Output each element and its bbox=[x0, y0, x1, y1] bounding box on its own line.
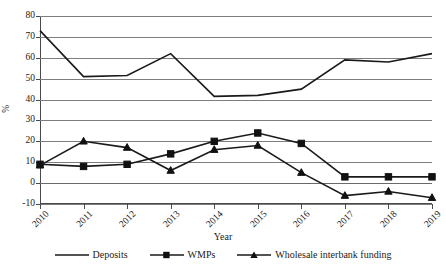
x-tick-mark-2019 bbox=[432, 204, 433, 209]
x-tick-mark-2014 bbox=[214, 204, 215, 209]
legend-label: Wholesale interbank funding bbox=[275, 250, 391, 260]
x-tick-label: 2015 bbox=[249, 209, 269, 229]
y-tick-label: -10 bbox=[22, 199, 35, 209]
data-point-marker-triangle bbox=[80, 137, 87, 144]
chart-legend: DepositsWMPsWholesale interbank funding bbox=[0, 250, 446, 260]
data-point-marker-square bbox=[385, 174, 391, 180]
series-deposits bbox=[40, 31, 432, 97]
x-tick-mark-2015 bbox=[258, 204, 259, 209]
x-tick-mark-2017 bbox=[345, 204, 346, 209]
triangle-marker-icon bbox=[237, 250, 271, 260]
y-axis-title: % bbox=[2, 105, 12, 113]
y-tick-label: 40 bbox=[26, 95, 36, 105]
x-tick-label: 2012 bbox=[118, 209, 138, 229]
line-chart-figure: % -1001020304050607080 20102011201220132… bbox=[0, 0, 446, 270]
legend-item-wholesale-interbank-funding[interactable]: Wholesale interbank funding bbox=[237, 250, 391, 260]
x-tick-label: 2017 bbox=[336, 209, 356, 229]
data-point-marker-square bbox=[167, 151, 173, 157]
y-tick-label: 30 bbox=[26, 116, 36, 126]
x-tick-mark-2013 bbox=[171, 204, 172, 209]
y-tick-label: 50 bbox=[26, 74, 36, 84]
x-tick-mark-2011 bbox=[84, 204, 85, 209]
series-line bbox=[40, 31, 432, 97]
data-point-marker-square bbox=[124, 161, 130, 167]
data-point-marker-square bbox=[429, 174, 435, 180]
legend-label: WMPs bbox=[188, 250, 216, 260]
data-point-marker-square bbox=[80, 163, 86, 169]
line-icon bbox=[55, 250, 89, 260]
data-point-marker-triangle bbox=[254, 142, 261, 149]
series-wholesale-interbank-funding bbox=[36, 137, 435, 200]
y-tick-label: 20 bbox=[26, 137, 36, 147]
legend-item-wmps[interactable]: WMPs bbox=[150, 250, 216, 260]
x-tick-label: 2019 bbox=[423, 209, 443, 229]
data-point-marker-triangle bbox=[385, 187, 392, 194]
y-tick-label: 0 bbox=[30, 178, 35, 188]
data-point-marker-square bbox=[298, 140, 304, 146]
x-tick-mark-2010 bbox=[40, 204, 41, 209]
gridline--10 bbox=[40, 204, 432, 205]
x-tick-label: 2013 bbox=[162, 209, 182, 229]
series-line bbox=[40, 141, 432, 197]
y-tick-label: 80 bbox=[26, 11, 36, 21]
x-tick-label: 2014 bbox=[205, 209, 225, 229]
y-tick-label: 60 bbox=[26, 53, 36, 63]
x-tick-label: 2010 bbox=[31, 209, 51, 229]
x-tick-label: 2018 bbox=[379, 209, 399, 229]
plot-area: -1001020304050607080 2010201120122013201… bbox=[40, 16, 432, 204]
series-wmps bbox=[37, 130, 435, 180]
legend-item-deposits[interactable]: Deposits bbox=[55, 250, 128, 260]
data-point-marker-square bbox=[211, 138, 217, 144]
x-tick-label: 2016 bbox=[292, 209, 312, 229]
x-axis-title: Year bbox=[0, 232, 446, 242]
data-point-marker-square bbox=[255, 130, 261, 136]
x-tick-mark-2018 bbox=[388, 204, 389, 209]
x-tick-mark-2012 bbox=[127, 204, 128, 209]
y-tick-label: 10 bbox=[26, 157, 36, 167]
y-tick-label: 70 bbox=[26, 32, 36, 42]
x-tick-mark-2016 bbox=[301, 204, 302, 209]
series-group bbox=[40, 16, 432, 204]
x-tick-label: 2011 bbox=[75, 209, 95, 229]
data-point-marker-square bbox=[342, 174, 348, 180]
data-point-marker-triangle bbox=[298, 169, 305, 176]
series-line bbox=[40, 133, 432, 177]
legend-label: Deposits bbox=[93, 250, 128, 260]
square-marker-icon bbox=[150, 250, 184, 260]
